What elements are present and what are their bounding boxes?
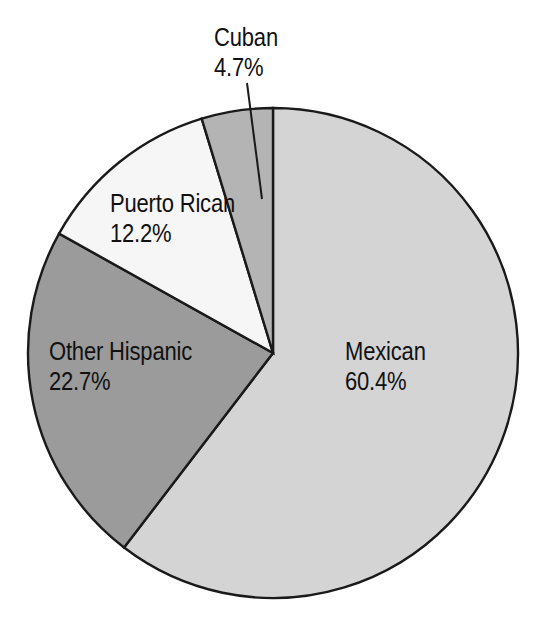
pie-label-cuban-name: Cuban: [214, 22, 278, 52]
pie-label-puerto-rican-name: Puerto Rican: [110, 188, 235, 218]
pie-label-cuban-value: 4.7%: [214, 52, 278, 82]
pie-chart: Cuban 4.7% Puerto Rican 12.2% Other Hisp…: [0, 0, 541, 625]
pie-chart-canvas: [0, 0, 541, 625]
pie-label-puerto-rican-value: 12.2%: [110, 218, 235, 248]
pie-label-other-hispanic-name: Other Hispanic: [49, 336, 192, 366]
pie-label-puerto-rican: Puerto Rican 12.2%: [110, 188, 235, 248]
pie-label-mexican-name: Mexican: [345, 336, 426, 366]
pie-label-cuban: Cuban 4.7%: [214, 22, 278, 82]
pie-label-mexican-value: 60.4%: [345, 366, 426, 396]
pie-label-other-hispanic-value: 22.7%: [49, 366, 192, 396]
pie-label-mexican: Mexican 60.4%: [345, 336, 426, 396]
pie-label-other-hispanic: Other Hispanic 22.7%: [49, 336, 192, 396]
